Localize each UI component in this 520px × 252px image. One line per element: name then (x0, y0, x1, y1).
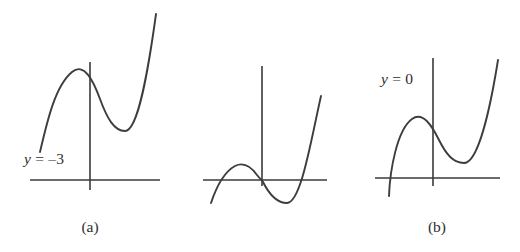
cubic-curve-c (389, 60, 498, 196)
axes-b (203, 66, 327, 186)
axes-a (30, 62, 160, 190)
axes-c (375, 58, 500, 186)
graph-panel-b: y = 0 (b) (175, 0, 340, 252)
graph-panel-c: y = 2 (c) (340, 0, 520, 252)
math-figure: y = –3 (a) y = 0 (b) (0, 0, 520, 252)
cubic-curve-b (211, 96, 321, 203)
caption-a: (a) (60, 218, 120, 236)
level-label-a: y = –3 (24, 150, 64, 168)
cubic-curve-a (40, 14, 156, 152)
level-label-a-variable: y (24, 150, 31, 167)
graph-panel-a: y = –3 (a) (0, 0, 180, 252)
level-label-a-equals: = (35, 150, 44, 167)
level-label-a-value: –3 (48, 150, 64, 167)
